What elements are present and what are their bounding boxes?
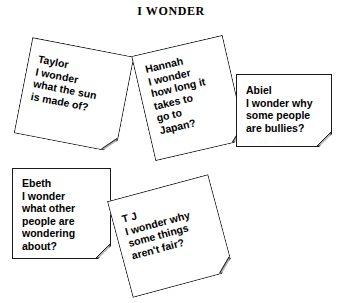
- note-text-ebeth: Ebeth I wonder what other people are won…: [22, 177, 75, 252]
- page-fold-icon: [216, 256, 233, 273]
- page-title: I WONDER: [0, 4, 342, 19]
- page-fold-icon: [96, 244, 110, 258]
- sticky-note-tj[interactable]: T J I wonder why some things aren't fair…: [107, 174, 234, 298]
- note-text-hannah: Hannah I wonder how long it takes to go …: [144, 51, 215, 137]
- note-line: Ebeth: [22, 177, 75, 190]
- note-line: people are: [22, 215, 75, 228]
- wonder-board: I WONDER Taylor I wonder what the sun is…: [0, 0, 342, 303]
- note-line: are bullies?: [246, 122, 313, 135]
- page-fold-icon: [101, 135, 117, 151]
- note-line: I wonder: [22, 190, 75, 203]
- sticky-note-ebeth[interactable]: Ebeth I wonder what other people are won…: [12, 168, 111, 259]
- note-text-taylor: Taylor I wonder what the sun is made of?: [30, 53, 103, 114]
- sticky-note-hannah[interactable]: Hannah I wonder how long it takes to go …: [131, 35, 247, 161]
- sticky-note-taylor[interactable]: Taylor I wonder what the sun is made of?: [14, 37, 135, 153]
- note-line: some people: [246, 109, 313, 122]
- note-line: Abiel: [246, 84, 313, 97]
- note-text-tj: T J I wonder why some things aren't fair…: [120, 196, 197, 262]
- sticky-note-abiel[interactable]: Abiel I wonder why some people are bulli…: [236, 74, 332, 147]
- note-line: what other: [22, 202, 75, 215]
- page-fold-icon: [317, 132, 331, 146]
- note-text-abiel: Abiel I wonder why some people are bulli…: [246, 84, 313, 134]
- note-line: I wonder why: [246, 97, 313, 110]
- note-line: about?: [22, 240, 75, 253]
- note-line: wondering: [22, 227, 75, 240]
